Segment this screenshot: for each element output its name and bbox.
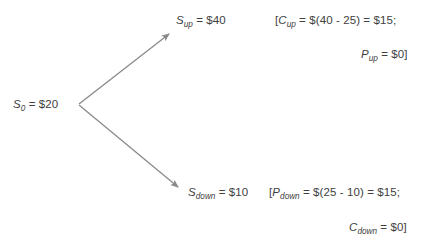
subscript-up: up bbox=[287, 20, 296, 29]
symbol-s: S bbox=[176, 14, 184, 26]
value-text: = $(40 - 25) = $15; bbox=[296, 14, 396, 26]
symbol-c: C bbox=[278, 14, 286, 26]
put-payoff-down-label: [Pdown = $(25 - 10) = $15; bbox=[269, 185, 400, 201]
subscript-down: down bbox=[196, 192, 216, 201]
value-text: = $40 bbox=[193, 14, 226, 26]
symbol-p: P bbox=[361, 48, 369, 60]
value-text: = $0] bbox=[377, 221, 407, 233]
call-payoff-down-label: Cdown = $0] bbox=[349, 220, 407, 236]
put-payoff-up-label: Pup = $0] bbox=[361, 47, 408, 63]
tree-branches bbox=[0, 0, 440, 252]
symbol-s: S bbox=[13, 98, 21, 110]
value-text: = $20 bbox=[25, 98, 58, 110]
value-text: = $10 bbox=[215, 186, 248, 198]
subscript-up: up bbox=[369, 54, 378, 63]
subscript-0: 0 bbox=[21, 104, 26, 113]
subscript-up: up bbox=[184, 20, 193, 29]
down-branch-arrow bbox=[79, 105, 178, 187]
down-stock-price-label: Sdown = $10 bbox=[188, 185, 248, 201]
subscript-down: down bbox=[357, 227, 377, 236]
symbol-p: P bbox=[272, 186, 280, 198]
initial-stock-price-label: S0 = $20 bbox=[13, 97, 58, 113]
call-payoff-up-label: [Cup = $(40 - 25) = $15; bbox=[275, 13, 396, 29]
value-text: = $(25 - 10) = $15; bbox=[300, 186, 400, 198]
symbol-s: S bbox=[188, 186, 196, 198]
subscript-down: down bbox=[280, 192, 300, 201]
up-branch-arrow bbox=[79, 34, 169, 104]
up-stock-price-label: Sup = $40 bbox=[176, 13, 226, 29]
binomial-tree-diagram: S0 = $20 Sup = $40 Sdown = $10 [Cup = $(… bbox=[0, 0, 440, 252]
value-text: = $0] bbox=[378, 48, 408, 60]
